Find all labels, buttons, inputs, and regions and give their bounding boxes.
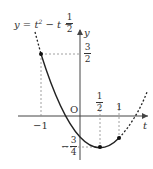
y-label-neg-sign: − bbox=[61, 142, 69, 152]
tick-half: 12 bbox=[96, 92, 103, 113]
y-axis-arrow-icon bbox=[77, 29, 83, 35]
t-axis-label: t bbox=[143, 121, 147, 131]
y-axis-label: y bbox=[84, 28, 90, 38]
y-label-3half: 32 bbox=[84, 43, 91, 64]
t-axis-arrow-icon bbox=[142, 113, 148, 119]
y-label-neg34: 34 bbox=[70, 136, 77, 157]
origin-label: O bbox=[70, 105, 78, 115]
tick-neg1: −1 bbox=[33, 121, 48, 131]
curve-dashed-left bbox=[35, 32, 41, 54]
point-1 bbox=[117, 136, 121, 140]
tick-1: 1 bbox=[116, 102, 122, 112]
formula-label: y = t2 − t − bbox=[14, 19, 73, 30]
point-vertex bbox=[98, 145, 102, 149]
formula-fraction: 12 bbox=[66, 13, 73, 34]
point-neg1 bbox=[39, 52, 43, 56]
